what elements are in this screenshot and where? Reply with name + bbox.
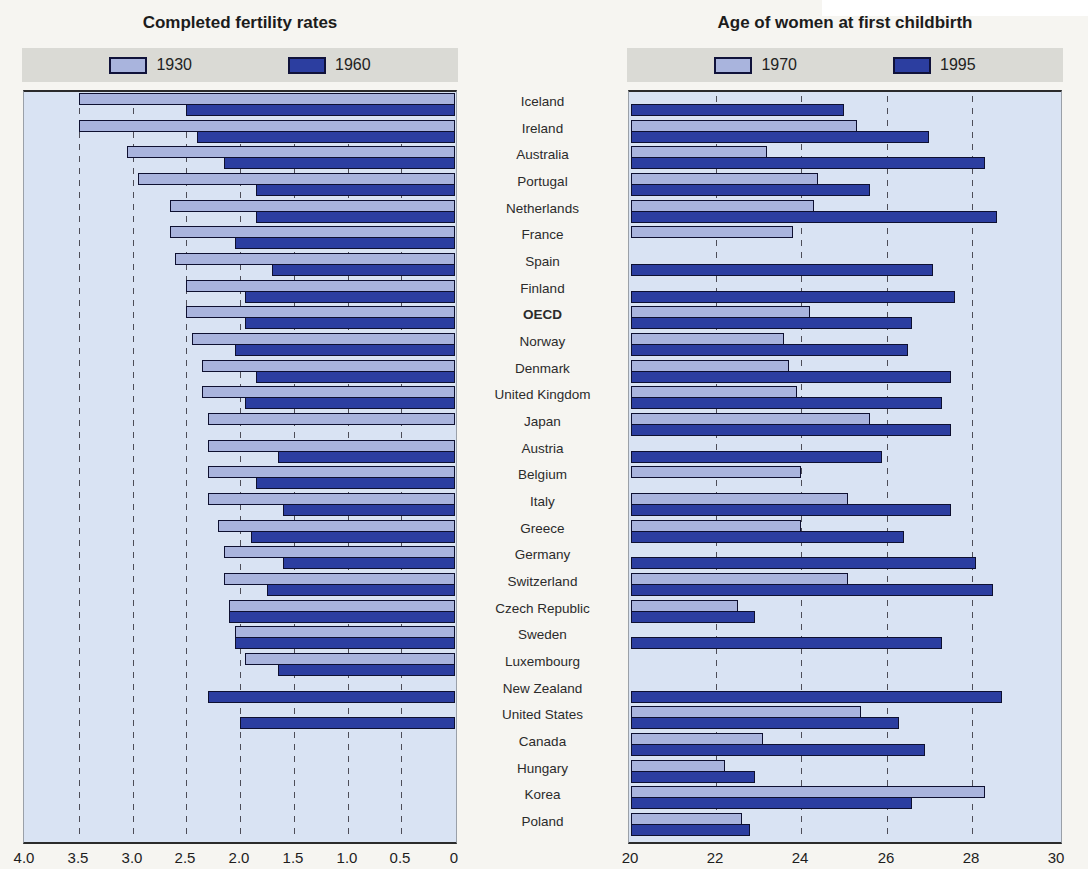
- bar-italy-1960: [283, 504, 455, 516]
- bar-czech-republic-1995: [631, 611, 755, 623]
- legend-item-1930: 1930: [109, 56, 192, 74]
- row-label-italy: Italy: [457, 494, 628, 510]
- row-label-greece: Greece: [457, 521, 628, 537]
- tick-label-3.5: 3.5: [56, 849, 100, 867]
- row-label-portugal: Portugal: [457, 174, 628, 190]
- row-label-netherlands: Netherlands: [457, 201, 628, 217]
- row-label-germany: Germany: [457, 547, 628, 563]
- row-label-sweden: Sweden: [457, 627, 628, 643]
- bar-france-1970: [631, 226, 793, 238]
- bar-spain-1960: [272, 264, 455, 276]
- bar-luxembourg-1960: [278, 664, 455, 676]
- row-label-belgium: Belgium: [457, 467, 628, 483]
- bar-canada-1995: [631, 744, 925, 756]
- bar-finland-1995: [631, 291, 955, 303]
- bar-united-kingdom-1960: [245, 397, 455, 409]
- tick-label-4.0: 4.0: [2, 849, 46, 867]
- bar-sweden-1995: [631, 637, 942, 649]
- legend-label-1995: 1995: [940, 56, 976, 74]
- bar-italy-1995: [631, 504, 951, 516]
- row-label-hungary: Hungary: [457, 761, 628, 777]
- bar-switzerland-1995: [631, 584, 993, 596]
- tick-label-3.0: 3.0: [110, 849, 154, 867]
- row-label-denmark: Denmark: [457, 361, 628, 377]
- bar-new-zealand-1960: [208, 691, 455, 703]
- tick-label-2.0: 2.0: [217, 849, 261, 867]
- bar-iceland-1995: [631, 104, 844, 116]
- row-label-spain: Spain: [457, 254, 628, 270]
- bar-denmark-1960: [256, 371, 455, 383]
- bar-netherlands-1995: [631, 211, 997, 223]
- bar-austria-1960: [278, 451, 455, 463]
- bar-oecd-1960: [245, 317, 455, 329]
- row-label-canada: Canada: [457, 734, 628, 750]
- bar-united-states-1995: [631, 717, 899, 729]
- left-chart-legend: 1930 1960: [22, 48, 458, 82]
- row-label-switzerland: Switzerland: [457, 574, 628, 590]
- bar-norway-1960: [235, 344, 455, 356]
- bar-poland-1995: [631, 824, 750, 836]
- bar-japan-1995: [631, 424, 951, 436]
- row-label-poland: Poland: [457, 814, 628, 830]
- bar-denmark-1995: [631, 371, 951, 383]
- tick-label-26: 26: [864, 849, 908, 867]
- bar-greece-1960: [251, 531, 455, 543]
- row-label-norway: Norway: [457, 334, 628, 350]
- bar-austria-1995: [631, 451, 882, 463]
- bar-united-states-1960: [240, 717, 455, 729]
- bar-ireland-1995: [631, 131, 929, 143]
- bar-france-1960: [235, 237, 455, 249]
- row-label-france: France: [457, 227, 628, 243]
- bar-oecd-1995: [631, 317, 912, 329]
- bar-australia-1995: [631, 157, 985, 169]
- row-label-luxembourg: Luxembourg: [457, 654, 628, 670]
- row-label-finland: Finland: [457, 281, 628, 297]
- bar-belgium-1960: [256, 477, 455, 489]
- tick-label-0.5: 0.5: [378, 849, 422, 867]
- bar-ireland-1960: [197, 131, 455, 143]
- legend-swatch-1960: [288, 57, 326, 74]
- tick-label-28: 28: [949, 849, 993, 867]
- right-chart-title: Age of women at first childbirth: [628, 12, 1062, 34]
- tick-label-1.0: 1.0: [325, 849, 369, 867]
- row-label-ireland: Ireland: [457, 121, 628, 137]
- bar-hungary-1995: [631, 771, 755, 783]
- bar-portugal-1960: [256, 184, 455, 196]
- bar-switzerland-1960: [267, 584, 455, 596]
- right-chart-plot-area: [628, 90, 1062, 844]
- legend-swatch-1995: [893, 57, 931, 74]
- row-label-japan: Japan: [457, 414, 628, 430]
- tick-label-0: 0: [432, 849, 476, 867]
- bar-iceland-1960: [186, 104, 455, 116]
- legend-item-1995: 1995: [893, 56, 976, 74]
- row-label-oecd: OECD: [457, 307, 628, 323]
- legend-label-1970: 1970: [761, 56, 797, 74]
- bar-finland-1960: [245, 291, 455, 303]
- bar-greece-1995: [631, 531, 904, 543]
- legend-label-1930: 1930: [156, 56, 192, 74]
- tick-label-1.5: 1.5: [271, 849, 315, 867]
- bar-new-zealand-1995: [631, 691, 1002, 703]
- legend-swatch-1970: [714, 57, 752, 74]
- legend-item-1970: 1970: [714, 56, 797, 74]
- legend-label-1960: 1960: [335, 56, 371, 74]
- tick-label-30: 30: [1034, 849, 1078, 867]
- left-chart-title: Completed fertility rates: [23, 12, 457, 34]
- row-label-korea: Korea: [457, 787, 628, 803]
- row-label-australia: Australia: [457, 147, 628, 163]
- gridline-28: [972, 96, 973, 838]
- legend-swatch-1930: [109, 57, 147, 74]
- bar-germany-1960: [283, 557, 455, 569]
- bar-australia-1960: [224, 157, 455, 169]
- bar-norway-1995: [631, 344, 908, 356]
- bar-united-kingdom-1995: [631, 397, 942, 409]
- row-label-czech-republic: Czech Republic: [457, 601, 628, 617]
- row-label-united-states: United States: [457, 707, 628, 723]
- bar-sweden-1960: [235, 637, 455, 649]
- bar-germany-1995: [631, 557, 976, 569]
- row-label-united-kingdom: United Kingdom: [457, 387, 628, 403]
- bar-belgium-1970: [631, 466, 801, 478]
- gridline-3: [133, 96, 134, 838]
- tick-label-24: 24: [778, 849, 822, 867]
- left-chart-plot-area: [23, 90, 457, 844]
